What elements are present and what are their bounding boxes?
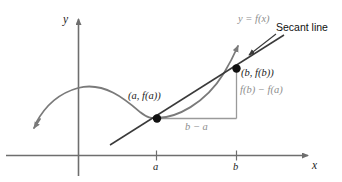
point-a-label: (a, f(a)) — [128, 91, 161, 102]
point-b-marker — [232, 64, 240, 72]
run-label: b − a — [185, 122, 208, 133]
point-b-label: (b, f(b)) — [241, 68, 274, 79]
point-a-marker — [153, 114, 161, 122]
rise-label: f(b) − f(a) — [240, 85, 283, 96]
function-curve — [36, 46, 238, 123]
x-tick-label-b: b — [233, 162, 238, 173]
secant-label-leader — [249, 34, 276, 55]
x-tick-label-a: a — [153, 162, 158, 173]
x-axis-label: x — [312, 160, 317, 172]
secant-line-label: Secant line — [276, 22, 328, 33]
y-axis-label: y — [63, 14, 68, 26]
curve-equation-label: y = f(x) — [238, 14, 270, 25]
secant-line-figure: y x a b y = f(x) Secant line (a, f(a)) (… — [0, 0, 342, 182]
